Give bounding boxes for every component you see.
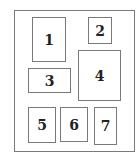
box-6: 6: [60, 107, 88, 142]
box-4-label: 4: [95, 68, 105, 84]
box-7: 7: [94, 107, 117, 145]
box-2-label: 2: [95, 23, 105, 39]
box-5: 5: [28, 107, 56, 143]
box-7-label: 7: [101, 118, 111, 134]
box-6-label: 6: [69, 117, 79, 133]
box-2: 2: [88, 17, 112, 44]
box-1: 1: [32, 17, 66, 62]
box-3: 3: [28, 68, 71, 93]
box-1-label: 1: [44, 32, 54, 48]
box-5-label: 5: [37, 117, 47, 133]
box-4: 4: [78, 50, 121, 101]
box-3-label: 3: [45, 73, 55, 89]
